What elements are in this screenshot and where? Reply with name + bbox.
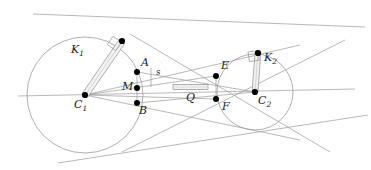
label-e: E xyxy=(221,60,229,71)
radius-k2-bar xyxy=(252,52,261,91)
label-k1: K1 xyxy=(71,44,84,58)
label-s: s xyxy=(156,68,160,77)
point-tangent-t1 xyxy=(119,38,125,44)
point-e xyxy=(213,73,219,79)
diagonal-line-ascending xyxy=(122,40,345,152)
geometry-canvas xyxy=(0,0,371,170)
lower-tangent-line xyxy=(58,115,368,163)
point-m xyxy=(134,85,140,91)
label-c1: C1 xyxy=(74,99,87,113)
geometry-figure: K1 K2 C1 C2 A M B E F Q s xyxy=(0,0,371,170)
point-a xyxy=(134,69,140,75)
upper-tangent-line xyxy=(33,14,365,27)
label-k2: K2 xyxy=(264,52,277,66)
label-q: Q xyxy=(186,92,195,103)
point-c1 xyxy=(82,92,88,98)
label-a: A xyxy=(141,57,149,68)
label-f: F xyxy=(222,101,230,112)
point-tangent-t2 xyxy=(255,50,261,56)
segment-f-c1 xyxy=(85,95,216,99)
point-f xyxy=(213,96,219,102)
label-b: B xyxy=(139,105,147,116)
label-m: M xyxy=(122,81,133,92)
segment-q-bar xyxy=(173,85,208,90)
label-c2: C2 xyxy=(258,95,271,109)
radius-k1-bar xyxy=(82,40,125,98)
